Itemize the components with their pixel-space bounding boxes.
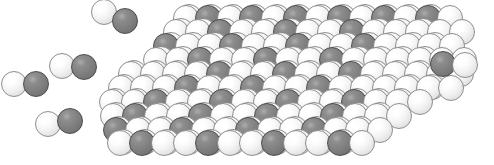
molecule-upper-left-2-atom-b	[71, 54, 97, 80]
molecular-visualization-viewport	[0, 0, 494, 165]
molecule-right-atom-b	[452, 52, 478, 78]
molecule-top-left-atom-b	[112, 8, 138, 34]
atom-scene	[0, 0, 494, 165]
slab-atom-front	[349, 130, 375, 156]
molecule-bottom-left-atom-b	[57, 108, 83, 134]
molecule-mid-left-atom-b	[23, 71, 49, 97]
slab-atom-front	[438, 75, 464, 101]
